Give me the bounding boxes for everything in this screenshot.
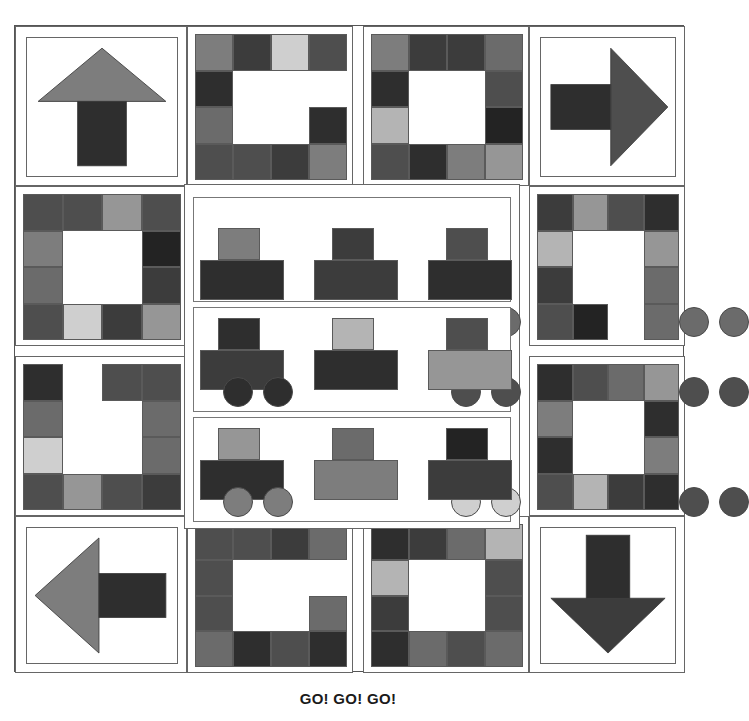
patch-cell-white [63, 267, 103, 304]
patch-cell [23, 231, 63, 268]
patch-cell [309, 107, 347, 144]
patch-cell [485, 596, 523, 632]
patch-cell [644, 231, 680, 268]
patch-cell [485, 34, 523, 71]
patch-cell [537, 401, 573, 438]
patch-cell [195, 107, 233, 144]
patch-cell [102, 304, 142, 341]
figure-caption: GO! GO! GO! [0, 690, 696, 707]
patch-cell [23, 304, 63, 341]
patch-cell [142, 231, 182, 268]
patch-cell [195, 596, 233, 632]
arrow-block-up [15, 26, 187, 186]
train-wheel [223, 377, 253, 407]
patch-cell [485, 107, 523, 144]
patch-cell [63, 194, 103, 231]
patch-cell [537, 267, 573, 304]
patch-cell [142, 304, 182, 341]
patch-cell [409, 631, 447, 667]
patch-cell-white [447, 596, 485, 632]
patch-cell [537, 231, 573, 268]
patch-cell-white [409, 596, 447, 632]
patch-cell [644, 401, 680, 438]
patch-cell-white [409, 107, 447, 144]
patch-cell-white [409, 560, 447, 596]
train-car-top [446, 428, 488, 460]
train-car-body [314, 460, 398, 500]
patch-cell [102, 194, 142, 231]
train-wheel [719, 487, 749, 517]
train-car-top [218, 318, 260, 350]
patch-cell-white [63, 364, 103, 401]
quilt-canvas [14, 25, 684, 672]
patch-cell [447, 524, 485, 560]
patchwork-block [529, 186, 685, 346]
patch-cell [447, 144, 485, 181]
patch-cell [195, 71, 233, 108]
patch-cell-white [447, 71, 485, 108]
patch-cell [485, 71, 523, 108]
patch-cell [371, 107, 409, 144]
patch-cell [537, 364, 573, 401]
patch-cell [23, 194, 63, 231]
patchwork-block [363, 26, 529, 186]
patch-cell-white [63, 231, 103, 268]
patch-cell [573, 474, 609, 511]
patch-cell [447, 631, 485, 667]
patchwork-block [187, 26, 353, 186]
patchwork-block [363, 516, 529, 673]
patch-cell [63, 304, 103, 341]
patch-cell [537, 194, 573, 231]
patch-cell [23, 267, 63, 304]
patch-cell-white [309, 71, 347, 108]
patch-cell [644, 474, 680, 511]
patch-cell-white [233, 107, 271, 144]
train-car-body [428, 460, 512, 500]
patch-cell [485, 524, 523, 560]
center-train-panel [184, 184, 520, 529]
patch-cell-white [63, 437, 103, 474]
train-car-top [332, 428, 374, 460]
train-wheel [679, 377, 709, 407]
patch-cell [608, 474, 644, 511]
patch-cell [195, 560, 233, 596]
train-wheel [263, 487, 293, 517]
patch-cell [195, 524, 233, 560]
patch-cell [271, 524, 309, 560]
train-car-top [332, 228, 374, 260]
patch-cell [142, 364, 182, 401]
patch-cell [233, 144, 271, 181]
patch-cell [409, 524, 447, 560]
patch-cell [23, 437, 63, 474]
train-row-1 [193, 197, 511, 302]
patch-cell-white [447, 107, 485, 144]
train-wheel [719, 377, 749, 407]
patch-cell [142, 474, 182, 511]
patch-cell-white [309, 560, 347, 596]
patch-cell [195, 631, 233, 667]
patch-cell-white [102, 267, 142, 304]
patch-cell-white [573, 401, 609, 438]
patch-cell-white [608, 231, 644, 268]
patch-cell [309, 524, 347, 560]
patch-cell [63, 474, 103, 511]
patch-cell-white [608, 304, 644, 341]
patch-cell-white [271, 596, 309, 632]
patch-cell-white [573, 437, 609, 474]
arrow-right-icon [540, 37, 676, 177]
patch-cell-white [271, 560, 309, 596]
patchwork-block [15, 356, 187, 516]
patch-cell [23, 474, 63, 511]
patch-cell-white [608, 401, 644, 438]
patch-cell [195, 34, 233, 71]
train-car-top [446, 318, 488, 350]
train-car-top [332, 318, 374, 350]
patch-cell [102, 364, 142, 401]
arrow-block-left [15, 516, 187, 673]
patch-cell [608, 194, 644, 231]
train-row-3 [193, 417, 511, 522]
patch-cell [142, 401, 182, 438]
patch-cell [485, 560, 523, 596]
train-car-top [218, 228, 260, 260]
